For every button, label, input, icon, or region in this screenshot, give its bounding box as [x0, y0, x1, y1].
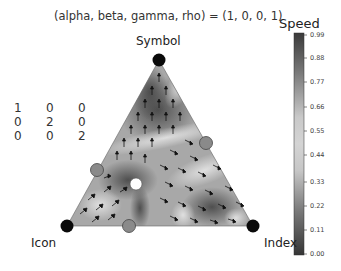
matrix-cell: 0 [14, 129, 46, 143]
vertex-label-icon: Icon [31, 236, 56, 250]
colorbar-tick-label: 0.22 [310, 202, 324, 210]
stable-point-symbol [153, 54, 166, 67]
matrix-cell: 0 [46, 129, 78, 143]
matrix-row: 0 2 0 [14, 115, 110, 129]
colorbar-gradient [294, 33, 304, 255]
colorbar-tick-label: 0.99 [310, 31, 324, 39]
colorbar-tick-label: 0.77 [310, 78, 324, 86]
colorbar-tick-label: 0.00 [310, 250, 324, 258]
colorbar-tick-label: 0.66 [310, 103, 324, 111]
stable-point-index [247, 220, 260, 233]
matrix-row: 0 0 2 [14, 129, 110, 143]
matrix-cell: 0 [14, 115, 46, 129]
matrix-row: 1 0 0 [14, 101, 110, 115]
ternary-figure: (alpha, beta, gamma, rho) = (1, 0, 0, 1)… [0, 0, 341, 271]
matrix-cell: 2 [46, 115, 78, 129]
saddle-point-icon-index [123, 220, 136, 233]
colorbar-title: Speed [279, 16, 320, 31]
matrix-cell: 2 [78, 129, 110, 143]
matrix-cell: 0 [46, 101, 78, 115]
vertex-label-symbol: Symbol [136, 34, 181, 48]
unstable-interior-point [130, 178, 142, 190]
matrix-cell: 0 [78, 101, 110, 115]
colorbar-tick-label: 0.33 [310, 178, 324, 186]
saddle-point-symbol-icon [91, 164, 104, 177]
vertex-label-index: Index [264, 236, 297, 250]
payoff-matrix: 1 0 0 0 2 0 0 0 2 [14, 101, 110, 143]
matrix-cell: 0 [78, 115, 110, 129]
colorbar [294, 33, 307, 255]
colorbar-tick-label: 0.11 [310, 226, 324, 234]
colorbar-ticks [304, 35, 307, 254]
colorbar-tick-label: 0.55 [310, 127, 324, 135]
stable-point-icon [61, 220, 74, 233]
colorbar-tick-label: 0.88 [310, 54, 324, 62]
matrix-cell: 1 [14, 101, 46, 115]
saddle-point-symbol-index [200, 137, 213, 150]
colorbar-tick-label: 0.44 [310, 151, 324, 159]
